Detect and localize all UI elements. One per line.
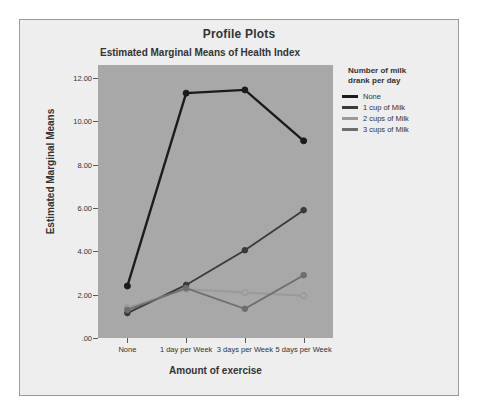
- legend-swatch-icon: [342, 128, 358, 131]
- legend-swatch-icon: [342, 117, 358, 120]
- chart-title: Estimated Marginal Means of Health Index: [20, 47, 380, 58]
- plot-series-svg: [98, 65, 333, 338]
- data-point: [124, 283, 130, 289]
- x-axis-tick-mark: [186, 338, 187, 343]
- data-point: [183, 90, 189, 96]
- data-point: [242, 290, 248, 296]
- legend-items: None1 cup of Milk2 cups of Milk3 cups of…: [342, 91, 454, 135]
- data-point: [242, 306, 248, 312]
- legend-item-label: 3 cups of Milk: [363, 125, 409, 134]
- legend: Number of milk drank per day None1 cup o…: [342, 66, 454, 135]
- legend-title-line-1: Number of milk: [348, 66, 454, 76]
- legend-item-label: 1 cup of Milk: [363, 103, 405, 112]
- data-point: [242, 87, 248, 93]
- x-axis-tick-label: 5 days per Week: [276, 345, 332, 354]
- x-axis-tick-label: 3 days per Week: [217, 345, 273, 354]
- series-3-cups-of-milk: [125, 272, 307, 312]
- data-point: [301, 138, 307, 144]
- series-line: [127, 90, 303, 286]
- legend-item-label: None: [363, 92, 381, 101]
- x-axis-tick-label: None: [118, 345, 136, 354]
- legend-swatch-icon: [342, 95, 358, 98]
- y-axis-title: Estimated Marginal Means: [45, 57, 56, 287]
- legend-item[interactable]: 2 cups of Milk: [342, 113, 454, 124]
- x-axis-title: Amount of exercise: [98, 365, 333, 376]
- profile-plots-output-frame: Profile Plots Estimated Marginal Means o…: [19, 19, 459, 396]
- legend-item-label: 2 cups of Milk: [363, 114, 409, 123]
- x-axis-tick-mark: [245, 338, 246, 343]
- legend-title-line-2: drank per day: [348, 76, 454, 86]
- legend-item[interactable]: 3 cups of Milk: [342, 124, 454, 135]
- x-axis-tick-marks: [98, 338, 333, 343]
- series-none: [124, 87, 306, 289]
- legend-item[interactable]: None: [342, 91, 454, 102]
- page-title: Profile Plots: [20, 27, 458, 41]
- legend-item[interactable]: 1 cup of Milk: [342, 102, 454, 113]
- data-point: [301, 272, 307, 278]
- x-axis-tick-label: 1 day per Week: [160, 345, 212, 354]
- chart-canvas: Profile Plots Estimated Marginal Means o…: [20, 20, 458, 395]
- x-axis-tick-labels: None1 day per Week3 days per Week5 days …: [60, 345, 390, 359]
- data-point: [183, 285, 189, 291]
- data-point: [301, 293, 307, 299]
- plot-area: [98, 65, 333, 338]
- y-axis-tick-label: 2.00: [48, 290, 92, 299]
- series-line: [127, 275, 303, 310]
- data-point: [125, 307, 131, 313]
- legend-title: Number of milk drank per day: [342, 66, 454, 86]
- y-axis-tick-label: .00: [48, 334, 92, 343]
- x-axis-tick-mark: [304, 338, 305, 343]
- x-axis-tick-mark: [127, 338, 128, 343]
- data-point: [301, 207, 307, 213]
- data-point: [242, 247, 248, 253]
- legend-swatch-icon: [342, 106, 358, 109]
